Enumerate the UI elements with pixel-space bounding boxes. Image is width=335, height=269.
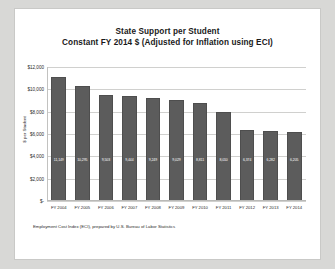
y-axis-tick-label: $4,000 (30, 154, 44, 159)
y-axis-tick-label: $12,000 (27, 65, 44, 70)
x-axis-tick-label: FY 2011 (212, 205, 236, 210)
x-axis-tick-label: FY 2006 (94, 205, 118, 210)
x-axis-tick-label: FY 2008 (141, 205, 165, 210)
x-axis-tick-label: FY 2010 (188, 205, 212, 210)
y-axis-tick-label: $2,000 (30, 176, 44, 181)
y-axis-tick-label: $- (40, 199, 44, 204)
gridline (47, 201, 306, 202)
chart-subtitle: Constant FY 2014 $ (Adjusted for Inflati… (15, 38, 320, 49)
y-axis-tick-label: $6,000 (30, 132, 44, 137)
x-axis-tick-label: FY 2009 (165, 205, 189, 210)
plot-area: $12,000$10,000$8,000$6,000$4,000$2,000$-… (47, 67, 306, 201)
chart-footnote: Employment Cost Index (ECI), prepared by… (33, 224, 175, 229)
x-axis-tick-label: FY 2007 (118, 205, 142, 210)
plot-frame (47, 67, 306, 201)
y-axis-title: $ per Student (22, 95, 27, 165)
x-axis-tick-label: FY 2012 (235, 205, 259, 210)
x-axis-tick-label: FY 2013 (259, 205, 283, 210)
y-axis-tick-label: $10,000 (27, 87, 44, 92)
chart-title-block: State Support per Student Constant FY 20… (15, 27, 320, 48)
x-axis-tick-label: FY 2014 (282, 205, 306, 210)
y-axis-tick-label: $8,000 (30, 109, 44, 114)
x-axis-tick-label: FY 2005 (71, 205, 95, 210)
chart-title: State Support per Student (15, 27, 320, 38)
chart-card: State Support per Student Constant FY 20… (14, 8, 321, 260)
x-axis-tick-label: FY 2004 (47, 205, 71, 210)
